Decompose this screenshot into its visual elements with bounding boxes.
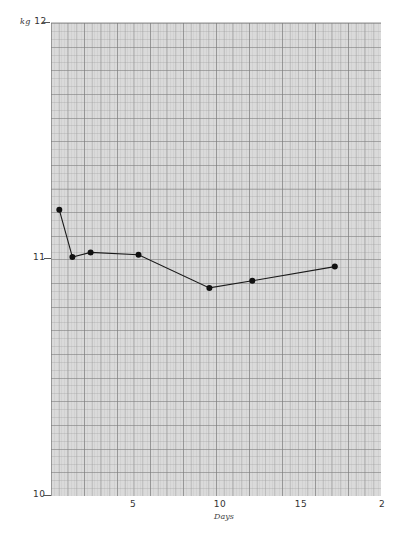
y-tick-mark-10 — [43, 495, 51, 496]
y-tick-mark-12 — [42, 22, 50, 23]
data-point-marker — [136, 252, 142, 258]
data-point-marker — [206, 285, 212, 291]
y-tick-10: 10 — [33, 489, 45, 499]
x-tick-15: 15 — [295, 499, 307, 509]
y-tick-12-label: 12 — [34, 16, 46, 26]
y-unit-label: kg — [20, 17, 31, 26]
y-tick-12: kg 12 — [20, 16, 47, 26]
plot-area-grid — [51, 22, 381, 496]
data-point-marker — [69, 254, 75, 260]
data-point-marker — [332, 264, 338, 270]
x-axis-title: Days — [214, 512, 234, 521]
x-tick-10: 10 — [214, 499, 226, 509]
data-series-svg — [51, 23, 381, 496]
series-line — [59, 210, 335, 288]
data-point-marker — [88, 249, 94, 255]
x-tick-5: 5 — [130, 499, 136, 509]
data-point-marker — [249, 278, 255, 284]
data-point-marker — [56, 207, 62, 213]
y-tick-11: 11 — [33, 252, 45, 262]
x-tick-20: 2 — [379, 499, 385, 509]
